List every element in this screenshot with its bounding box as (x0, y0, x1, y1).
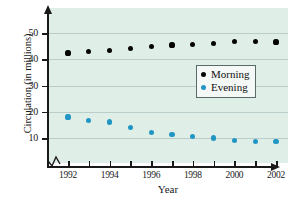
x-axis-tick (193, 161, 195, 167)
x-axis-tick-label: 1994 (93, 170, 127, 180)
y-axis-arrow-icon (44, 5, 52, 14)
x-axis-tick (110, 161, 112, 167)
legend-label-evening: Evening (211, 82, 248, 93)
chart-figure: 1020304050 199219941996199820002002 Circ… (0, 0, 288, 203)
x-axis-tick (214, 161, 216, 167)
x-axis-tick (234, 161, 236, 167)
chart-legend: Morning Evening (196, 65, 256, 98)
x-axis-tick (130, 161, 132, 167)
axis-break-icon (47, 155, 67, 169)
x-axis-tick (68, 161, 70, 167)
legend-item-evening: Evening (201, 81, 250, 94)
gridline (48, 112, 288, 113)
gridline (48, 138, 288, 139)
x-axis-title: Year (48, 183, 288, 195)
y-axis-tick (42, 138, 48, 140)
legend-marker-morning-icon (201, 72, 206, 77)
x-axis-tick-label: 2002 (259, 170, 288, 180)
gridline (48, 33, 288, 34)
y-axis-tick (42, 112, 48, 114)
x-axis-tick (151, 161, 153, 167)
y-axis-line (47, 12, 49, 167)
y-axis-tick (42, 59, 48, 61)
x-axis-line (47, 166, 272, 168)
x-axis-tick-label: 1998 (176, 170, 210, 180)
legend-label-morning: Morning (211, 69, 250, 80)
y-axis-title: Circulation (in millions) (22, 0, 33, 169)
x-axis-tick-label: 1996 (134, 170, 168, 180)
gridline (48, 59, 288, 60)
y-axis-tick (42, 86, 48, 88)
legend-marker-evening-icon (201, 85, 206, 90)
x-axis-tick (172, 161, 174, 167)
y-axis-tick (42, 33, 48, 35)
x-axis-tick (255, 161, 257, 167)
x-axis-tick-label: 1992 (51, 170, 85, 180)
legend-item-morning: Morning (201, 68, 250, 81)
x-axis-tick (276, 161, 278, 167)
x-axis-tick-label: 2000 (217, 170, 251, 180)
x-axis-tick (89, 161, 91, 167)
